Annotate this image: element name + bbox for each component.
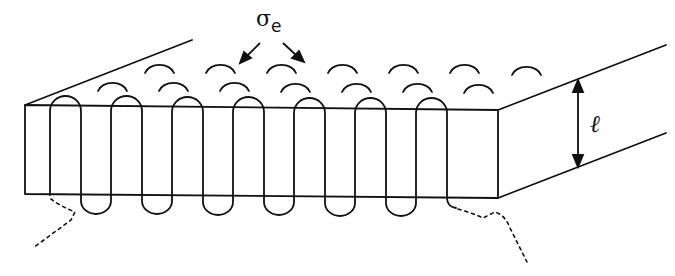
lamella-diagram (0, 0, 675, 276)
sigma-symbol: σ (256, 6, 271, 31)
chain-tail-left (33, 199, 75, 248)
chain-tail-right (458, 209, 527, 262)
slab-right-bottom-edge (498, 133, 666, 198)
thickness-arrow-head-top (573, 80, 583, 92)
thickness-label: ℓ (590, 110, 600, 138)
slab-back-left-edge (25, 40, 192, 105)
sigma-subscript: e (271, 16, 281, 36)
surface-folds-middle-row (98, 83, 493, 93)
slab-right-top-edge (498, 45, 666, 110)
slab-front-face (25, 105, 498, 198)
sigma-e-label: σe (256, 6, 282, 31)
surface-folds-back-row (145, 65, 541, 75)
